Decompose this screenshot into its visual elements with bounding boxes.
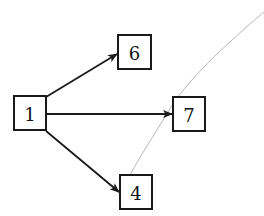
node-1[interactable]: 1 <box>14 96 46 130</box>
node-6-label: 6 <box>129 43 140 64</box>
node-6[interactable]: 6 <box>118 35 151 69</box>
node-7[interactable]: 7 <box>173 97 205 131</box>
node-7-label: 7 <box>183 105 194 126</box>
edge-1-to-4 <box>46 131 119 192</box>
node-4-label: 4 <box>130 183 141 204</box>
edge-1-to-6 <box>46 54 117 97</box>
node-4[interactable]: 4 <box>120 175 152 209</box>
node-1-label: 1 <box>24 104 35 125</box>
graph-canvas: 1 6 7 4 <box>0 0 264 216</box>
